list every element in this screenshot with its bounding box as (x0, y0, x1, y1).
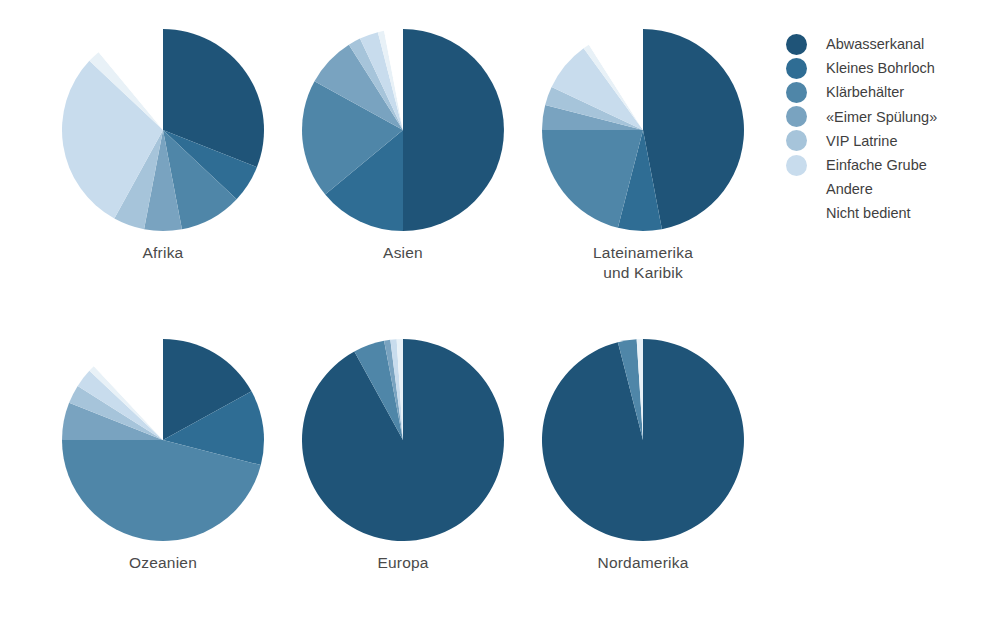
pie-svg (300, 27, 506, 233)
legend-swatch-icon (786, 179, 807, 200)
pie-chart-label: Nordamerika (528, 553, 758, 573)
pie-svg (540, 27, 746, 233)
legend-item-label: Einfache Grube (826, 157, 927, 173)
chart-legend: AbwasserkanalKleines BohrlochKlärbehälte… (786, 32, 986, 226)
pie-chart-label: Asien (288, 243, 518, 263)
legend-item[interactable]: Klärbehälter (786, 80, 986, 104)
legend-item-label: Kleines Bohrloch (826, 60, 935, 76)
pie-chart-figure: AfrikaAsienLateinamerikaund KaribikOzean… (0, 0, 999, 619)
pie-graphic (288, 332, 518, 547)
legend-item-label: VIP Latrine (826, 133, 897, 149)
pie-chart-europa: Europa (288, 332, 518, 573)
legend-item-label: Klärbehälter (826, 84, 904, 100)
pie-chart-asien: Asien (288, 22, 518, 263)
legend-item[interactable]: Abwasserkanal (786, 32, 986, 56)
legend-item[interactable]: Andere (786, 177, 986, 201)
legend-item[interactable]: Kleines Bohrloch (786, 56, 986, 80)
legend-item-label: Andere (826, 181, 873, 197)
pie-chart-label: Ozeanien (48, 553, 278, 573)
pie-graphic (48, 332, 278, 547)
pie-svg (300, 337, 506, 543)
legend-swatch-icon (786, 34, 807, 55)
legend-item[interactable]: Nicht bedient (786, 201, 986, 225)
pie-chart-label-line: Nordamerika (528, 553, 758, 573)
pie-chart-label-line: Lateinamerika (528, 243, 758, 263)
pie-svg (60, 27, 266, 233)
legend-swatch-icon (786, 155, 807, 176)
legend-swatch-icon (786, 106, 807, 127)
pie-chart-label-line: Europa (288, 553, 518, 573)
pie-chart-nordamerika: Nordamerika (528, 332, 758, 573)
pie-chart-label-line: Afrika (48, 243, 278, 263)
legend-item-label: «Eimer Spülung» (826, 109, 937, 125)
legend-item[interactable]: Einfache Grube (786, 153, 986, 177)
legend-swatch-icon (786, 82, 807, 103)
legend-item[interactable]: VIP Latrine (786, 129, 986, 153)
pie-chart-afrika: Afrika (48, 22, 278, 263)
pie-svg (540, 337, 746, 543)
pie-chart-label-line: Ozeanien (48, 553, 278, 573)
pie-chart-lateinamerika-und-karibik: Lateinamerikaund Karibik (528, 22, 758, 283)
pie-graphic (48, 22, 278, 237)
pie-chart-label: Europa (288, 553, 518, 573)
pie-chart-label: Afrika (48, 243, 278, 263)
pie-svg (60, 337, 266, 543)
pie-chart-ozeanien: Ozeanien (48, 332, 278, 573)
legend-item-label: Nicht bedient (826, 205, 911, 221)
pie-chart-label: Lateinamerikaund Karibik (528, 243, 758, 283)
pie-chart-label-line: und Karibik (528, 263, 758, 283)
pie-slice-abwasserkanal (643, 29, 744, 229)
pie-graphic (288, 22, 518, 237)
pie-graphic (528, 22, 758, 237)
legend-swatch-icon (786, 203, 807, 224)
pie-chart-label-line: Asien (288, 243, 518, 263)
legend-swatch-icon (786, 58, 807, 79)
pie-slice-abwasserkanal (403, 29, 504, 231)
legend-swatch-icon (786, 130, 807, 151)
legend-item-label: Abwasserkanal (826, 36, 924, 52)
pie-graphic (528, 332, 758, 547)
legend-item[interactable]: «Eimer Spülung» (786, 105, 986, 129)
